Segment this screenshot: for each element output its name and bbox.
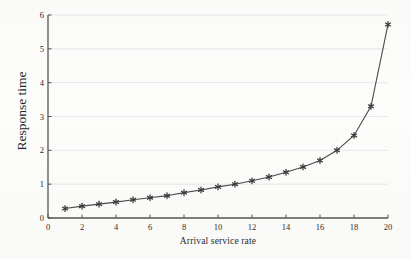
y-axis-label: Response time	[14, 28, 30, 193]
x-tick-label: 18	[350, 222, 359, 232]
data-point	[385, 22, 390, 28]
x-tick-label: 8	[182, 222, 186, 232]
figure-container: Response time 02468101214161820 0123456 …	[0, 0, 411, 258]
x-tick-label: 6	[148, 222, 152, 232]
x-axis-label: Arrival service rate	[48, 236, 388, 246]
y-axis-label-text: Response time	[14, 71, 30, 150]
x-tick-label: 2	[80, 222, 84, 232]
x-tick-label: 0	[46, 222, 50, 232]
figure-caption	[0, 249, 411, 258]
x-tick-label: 20	[384, 222, 393, 232]
x-tick-label: 12	[248, 222, 257, 232]
x-tick-label: 10	[214, 222, 223, 232]
data-point	[317, 158, 322, 164]
x-tick-label: 14	[282, 222, 291, 232]
x-tick-label: 16	[316, 222, 325, 232]
gridlines	[48, 15, 388, 184]
y-tick-label: 4	[30, 78, 44, 88]
line-chart	[48, 15, 388, 218]
x-tick-label: 4	[114, 222, 118, 232]
y-tick-label: 5	[30, 44, 44, 54]
y-tick-label: 0	[30, 213, 44, 223]
y-tick-label: 2	[30, 145, 44, 155]
y-tick-label: 1	[30, 179, 44, 189]
y-tick-label: 6	[30, 10, 44, 20]
plot-area	[48, 15, 388, 218]
y-tick-label: 3	[30, 112, 44, 122]
